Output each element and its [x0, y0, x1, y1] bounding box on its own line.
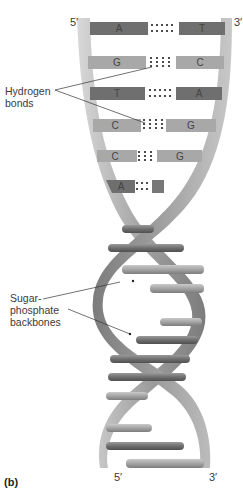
- strand-end-bottom-right: 3′: [209, 471, 217, 483]
- svg-text:C: C: [196, 57, 203, 68]
- strand-end-bottom-left: 5′: [114, 471, 122, 483]
- svg-text:A: A: [196, 88, 203, 99]
- svg-text:T: T: [199, 23, 205, 34]
- svg-text:C: C: [111, 120, 118, 131]
- right-backbone: [93, 18, 232, 468]
- base-pair-2: G C: [88, 56, 224, 69]
- svg-text:G: G: [113, 57, 121, 68]
- svg-text:T: T: [114, 88, 120, 99]
- panel-label: (b): [4, 476, 18, 488]
- base-pair-6: A: [106, 180, 164, 193]
- strand-end-top-left: 5′: [70, 16, 78, 28]
- svg-text:G: G: [176, 151, 184, 162]
- svg-text:A: A: [116, 23, 123, 34]
- dna-diagram: A T G C T A C G C G: [0, 0, 243, 495]
- base-pair-4: C G: [93, 119, 216, 132]
- svg-text:G: G: [187, 120, 195, 131]
- base-pair-1: A T: [90, 22, 225, 35]
- svg-text:A: A: [118, 181, 125, 192]
- base-pair-3: T A: [90, 87, 222, 100]
- strand-end-top-right: 3′: [234, 16, 242, 28]
- sugar-phosphate-backbones-label: Sugar- phosphate backbones: [10, 292, 61, 328]
- hydrogen-bonds-label: Hydrogen bonds: [5, 85, 51, 109]
- base-pair-5: C G: [97, 150, 202, 162]
- svg-text:C: C: [111, 151, 118, 162]
